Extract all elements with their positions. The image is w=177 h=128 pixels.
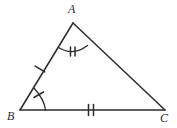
vertex-label-a: A bbox=[68, 3, 75, 15]
triangle-diagram bbox=[0, 0, 177, 128]
vertex-label-b: B bbox=[7, 110, 14, 122]
side-ac bbox=[73, 23, 165, 110]
side-ab bbox=[20, 23, 73, 110]
angle-arc-b bbox=[34, 88, 46, 111]
side-ab-tick-1 bbox=[35, 66, 45, 72]
side-tick-marks bbox=[35, 66, 93, 115]
angle-arcs bbox=[34, 46, 88, 111]
angle-arc-a bbox=[59, 46, 88, 52]
triangle-sides bbox=[20, 23, 165, 110]
geometry-figure: A B C bbox=[0, 0, 177, 128]
vertex-label-c: C bbox=[160, 112, 168, 124]
